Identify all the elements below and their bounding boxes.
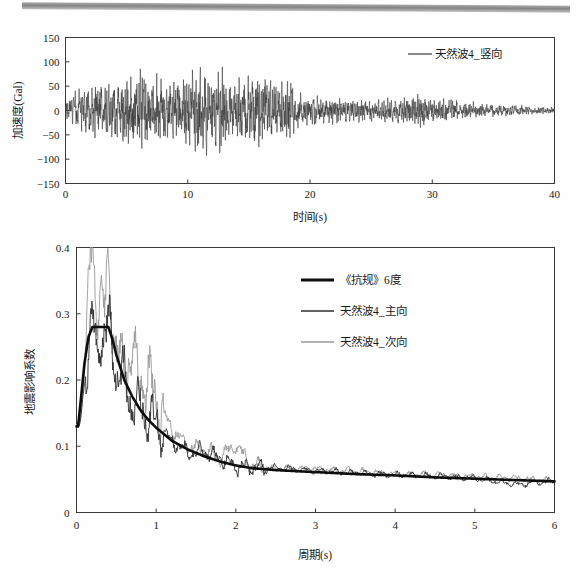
top-ytick-label: −150 — [37, 178, 60, 190]
acceleration-time-history-figure: 010203040−150−100−50050100150 天然波4_竖向 时间… — [0, 18, 577, 230]
bottom-ytick-label: 0.1 — [56, 440, 70, 452]
bottom-xtick-label: 2 — [233, 519, 239, 531]
bottom-tick-labels: 012345600.10.20.30.4 — [56, 242, 558, 531]
legend-label-minor-direction: 天然波4_次向 — [340, 335, 407, 348]
legend-label-code-spectrum: 《抗规》6度 — [340, 273, 402, 286]
response-spectrum-figure: 012345600.10.20.30.4 《抗规》6度 天然波4_主向 天然波4… — [0, 232, 577, 572]
bottom-xtick-label: 3 — [313, 519, 319, 531]
bottom-ytick-label: 0.3 — [56, 308, 70, 320]
top-xaxis-title: 时间(s) — [293, 211, 327, 224]
figure-page: 010203040−150−100−50050100150 天然波4_竖向 时间… — [0, 0, 577, 572]
top-xtick-label: 10 — [182, 188, 194, 200]
bottom-xtick-label: 0 — [74, 519, 80, 531]
top-ytick-label: −50 — [42, 129, 60, 141]
acceleration-time-history-plot: 010203040−150−100−50050100150 天然波4_竖向 时间… — [0, 18, 577, 230]
bottom-xtick-label: 6 — [552, 519, 558, 531]
bottom-xtick-label: 4 — [392, 519, 398, 531]
bottom-legend: 《抗规》6度 天然波4_主向 天然波4_次向 — [301, 273, 407, 348]
response-spectrum-plot: 012345600.10.20.30.4 《抗规》6度 天然波4_主向 天然波4… — [0, 232, 577, 572]
top-legend-label: 天然波4_竖向 — [435, 47, 502, 60]
top-ytick-label: −100 — [37, 153, 60, 165]
top-xtick-label: 0 — [63, 188, 69, 200]
bottom-xaxis-title: 周期(s) — [298, 549, 332, 562]
bottom-xtick-label: 5 — [472, 519, 478, 531]
bottom-series-line-major-direction — [77, 295, 555, 488]
bottom-series-line-code-spectrum — [77, 248, 555, 484]
top-xtick-label: 30 — [427, 188, 439, 200]
top-ytick-label: 100 — [43, 56, 60, 68]
bottom-ytick-label: 0.2 — [56, 374, 70, 386]
top-ytick-label: 0 — [54, 105, 60, 117]
top-ytick-label: 50 — [49, 80, 61, 92]
bottom-ytick-label: 0.4 — [56, 242, 70, 254]
top-series-group — [66, 67, 555, 156]
top-ytick-label: 150 — [43, 32, 60, 44]
top-yaxis-title: 加速度(Gal) — [11, 81, 25, 138]
top-legend: 天然波4_竖向 — [408, 47, 502, 60]
bottom-xtick-label: 1 — [153, 519, 159, 531]
top-xtick-label: 20 — [305, 188, 317, 200]
bottom-series-line-minor-direction — [77, 327, 555, 481]
bottom-yaxis-title: 地震影响系数 — [23, 348, 36, 415]
bottom-series-group — [77, 248, 555, 488]
bottom-ytick-label: 0 — [64, 507, 70, 519]
top-xtick-label: 40 — [549, 188, 561, 200]
legend-label-major-direction: 天然波4_主向 — [340, 304, 407, 317]
top-series-line — [66, 67, 555, 156]
scan-artifact-bar — [22, 2, 570, 12]
